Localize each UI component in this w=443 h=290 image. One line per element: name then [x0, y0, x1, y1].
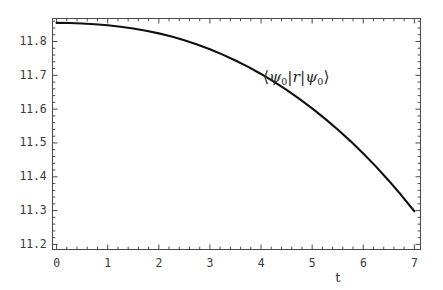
psi-subscript-right: 0 [317, 76, 323, 87]
x-tick-label: 2 [144, 256, 174, 270]
y-tick-label: 11.7 [20, 68, 47, 82]
axis-ticks [53, 19, 421, 250]
x-tick-label: 3 [195, 256, 225, 270]
x-tick-label: 5 [297, 256, 327, 270]
data-curve-line [57, 23, 415, 211]
psi-symbol-left: ψ [269, 68, 281, 86]
y-tick-label: 11.3 [20, 203, 47, 217]
y-tick-label: 11.5 [20, 135, 47, 149]
x-tick-label: 4 [246, 256, 276, 270]
operator-symbol: r [293, 68, 300, 86]
y-tick-label: 11.4 [20, 169, 47, 183]
x-axis-label: t [335, 270, 340, 285]
y-tick-label: 11.8 [20, 34, 47, 48]
plot-canvas [0, 0, 443, 290]
plot-figure: 11.211.311.411.511.611.711.8 01234567 t … [0, 0, 443, 290]
x-tick-label: 1 [93, 256, 123, 270]
y-tick-label: 11.2 [20, 237, 47, 251]
ket-bracket-glyph: ⟩ [323, 68, 329, 86]
plot-frame [53, 19, 421, 250]
x-tick-label: 6 [348, 256, 378, 270]
psi-subscript-left: 0 [281, 76, 287, 87]
curve-annotation-label: ⟨ψ0|r|ψ0⟩ [263, 68, 329, 86]
x-tick-label: 0 [42, 256, 72, 270]
psi-symbol-right: ψ [305, 68, 317, 86]
y-tick-label: 11.6 [20, 102, 47, 116]
x-tick-label: 7 [399, 256, 429, 270]
